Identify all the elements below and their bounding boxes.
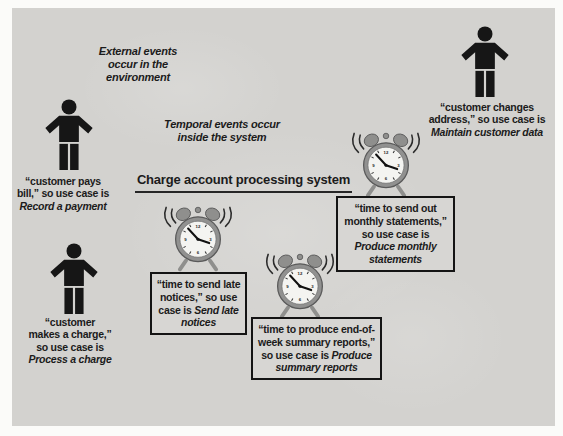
alarm-clock-icon: 12 3 6 9: [155, 203, 241, 272]
note-temporal-events: Temporal events occur inside the system: [156, 118, 288, 144]
svg-text:12: 12: [196, 224, 201, 229]
use-case-name: Maintain customer data: [431, 126, 543, 138]
note-external-events: External events occur in the environment: [78, 45, 198, 84]
temporal-box-send-late-notices: “time to send late notices,” so use case…: [150, 272, 247, 335]
system-title: Charge account processing system: [135, 172, 352, 193]
person-icon: [43, 99, 95, 170]
svg-text:12: 12: [384, 150, 389, 155]
temporal-box-summary-reports: “time to produce end-of-week summary rep…: [251, 317, 382, 380]
use-case-name: Record a payment: [19, 200, 106, 212]
svg-text:12: 12: [298, 271, 303, 276]
alarm-clock-icon: 12 3 6 9: [343, 129, 429, 198]
use-case-name: Process a charge: [29, 353, 112, 365]
figure-use-case-events: External events occur in the environment…: [0, 0, 563, 436]
caption-text: “customer makes a charge,” so use case i…: [29, 316, 112, 353]
actor-caption-maintain-data: “customer changes address,” so use case …: [424, 101, 550, 138]
person-icon: [459, 26, 511, 97]
actor-caption-record-payment: “customer pays bill,” so use case is Rec…: [16, 175, 110, 212]
caption-text: “customer pays bill,” so use case is: [17, 175, 109, 199]
caption-text: “customer changes address,” so use case …: [429, 101, 546, 125]
actor-caption-process-charge: “customer makes a charge,” so use case i…: [28, 316, 112, 366]
person-icon: [48, 243, 100, 314]
use-case-name: Produce monthly statements: [354, 240, 436, 265]
temporal-box-monthly-statements: “time to send out monthly statements,” s…: [336, 196, 455, 272]
caption-text: “time to send out monthly statements,” s…: [344, 202, 446, 240]
alarm-clock-icon: 12 3 6 9: [257, 250, 343, 319]
